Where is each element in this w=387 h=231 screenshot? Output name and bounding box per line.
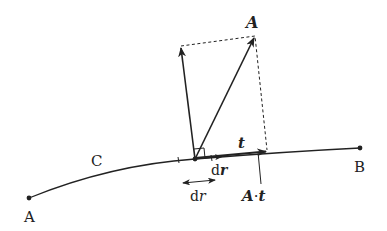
label-end-b: B xyxy=(354,158,365,176)
vector-a-arrow xyxy=(195,38,254,159)
point-a xyxy=(27,196,32,201)
label-arc-prefix: d xyxy=(190,188,199,204)
label-tangent-t: t xyxy=(238,134,245,152)
label-a-dot-t: A·t xyxy=(240,187,265,205)
label-arc-dr: dr xyxy=(190,188,207,204)
projection-leader xyxy=(258,152,261,184)
label-dr-vector: dr xyxy=(211,162,229,178)
line-integral-diagram: A B C A t dr dr A·t xyxy=(0,0,387,231)
point-b xyxy=(358,146,363,151)
label-arc-r: r xyxy=(199,188,207,204)
label-start-a: A xyxy=(23,208,35,226)
dashed-construction xyxy=(181,36,267,150)
tick-mark xyxy=(178,157,179,163)
label-proj-a: A xyxy=(240,187,254,205)
label-curve-c: C xyxy=(91,152,102,170)
label-dr-r: r xyxy=(220,162,229,178)
label-dr-prefix: d xyxy=(211,162,220,178)
label-vector-a: A xyxy=(244,13,258,32)
label-proj-t: t xyxy=(258,187,265,205)
normal-component-arrow xyxy=(181,48,195,159)
arc-length-double-arrow xyxy=(183,180,215,183)
